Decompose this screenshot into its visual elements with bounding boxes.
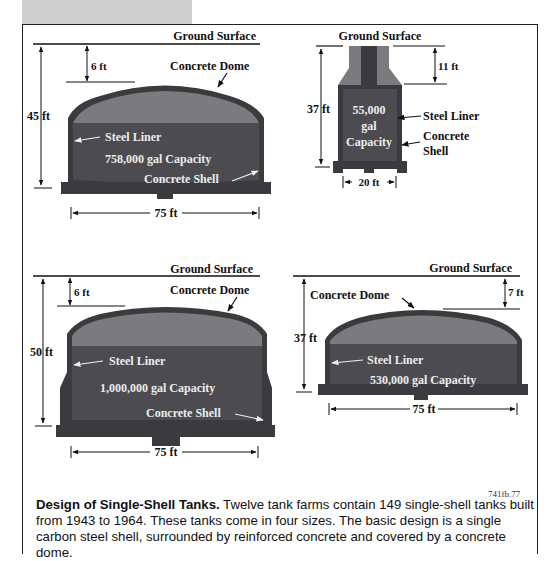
liner-label: Steel Liner [367,353,424,367]
riser-column [361,46,377,86]
figure-caption: Design of Single-Shell Tanks. Twelve tan… [36,497,536,561]
shell-label: Concrete Shell [146,406,221,420]
ground-surface-label: Ground Surface [339,29,422,43]
width-label: 75 ft [155,445,178,459]
dome-label: Concrete Dome [170,59,250,73]
dome-pointer [218,73,227,87]
shell-pointer [402,142,420,145]
dome-label: Concrete Dome [310,288,390,302]
dome-label: Concrete Dome [170,283,250,297]
width-label: 20 ft [358,176,379,188]
ground-surface-label: Ground Surface [170,262,253,276]
width-label: 75 ft [413,402,436,416]
cover-label: 7 ft [508,286,524,298]
height-label: 45 ft [27,109,50,123]
dome-pointer [228,297,237,311]
capacity-line-2: gal [361,119,377,133]
height-label: 50 ft [30,345,53,359]
dome-pointer [402,298,414,308]
height-label: 37 ft [307,102,330,116]
liner-label: Steel Liner [105,130,162,144]
base-foot [414,395,428,400]
capacity-line-3: Capacity [346,135,392,149]
concrete-base [333,161,407,169]
base-foot [157,194,173,199]
cover-label: 6 ft [74,286,90,298]
shell-label: Concrete Shell [144,172,219,186]
height-label: 37 ft [294,331,317,345]
base-foot-left [333,169,343,173]
ground-surface-label: Ground Surface [429,261,512,275]
shell-label-1: Concrete [423,129,470,143]
concrete-base [56,425,275,437]
capacity-line-1: 55,000 [353,103,386,117]
base-foot-mid [364,169,374,173]
cover-label: 6 ft [91,60,107,72]
liner-label: Steel Liner [423,109,480,123]
tank-530k: Ground Surface 37 ft 7 ft Concrete Dome … [293,261,528,416]
base-foot-right [397,169,407,173]
capacity-label: 758,000 gal Capacity [105,152,211,166]
liner-label: Steel Liner [109,354,166,368]
ground-surface-label: Ground Surface [173,29,256,43]
caption-title: Design of Single-Shell Tanks. [36,497,220,512]
tank-758k: Ground Surface 45 ft 6 ft Concrete Dome … [27,29,271,220]
capacity-label: 530,000 gal Capacity [370,373,476,387]
tank-1000k: Ground Surface 50 ft 6 ft Concrete Dome … [30,262,275,459]
capacity-label: 1,000,000 gal Capacity [100,381,215,395]
shell-label-2: Shell [423,144,449,158]
tank-55k: Ground Surface 37 ft 11 ft 55,000 gal Ca… [307,29,480,188]
width-label: 75 ft [155,206,178,220]
cover-label: 11 ft [438,60,459,72]
